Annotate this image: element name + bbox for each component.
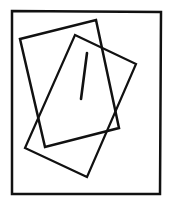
rectangle-b	[25, 35, 136, 177]
short-line-mark	[81, 53, 87, 99]
diagram-canvas	[0, 0, 169, 202]
